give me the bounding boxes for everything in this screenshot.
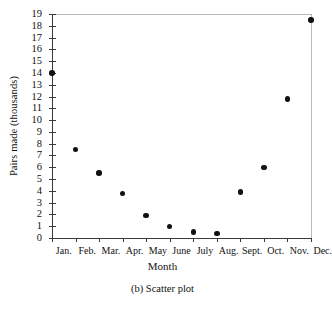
y-axis-tick-labels: 012345678910111213141516171819: [26, 0, 42, 328]
figure-caption: (b) Scatter plot: [0, 283, 325, 294]
y-axis-tick: [49, 132, 56, 133]
y-axis-tick-label: 18: [26, 20, 42, 31]
y-axis-tick: [49, 61, 56, 62]
x-axis-tick: [287, 238, 288, 242]
y-axis-tick: [49, 226, 56, 227]
x-axis-tick-label: Aug.: [219, 245, 239, 256]
y-axis-tick-label: 3: [26, 197, 42, 208]
y-axis-tick-label: 11: [26, 103, 42, 114]
x-axis-tick: [146, 238, 147, 242]
x-axis-tick: [217, 238, 218, 242]
y-axis-tick: [49, 167, 56, 168]
y-axis-tick-label: 16: [26, 44, 42, 55]
x-axis-tick-label: July: [197, 245, 214, 256]
y-axis-tick-label: 13: [26, 79, 42, 90]
x-axis-tick-label: May: [149, 245, 167, 256]
y-axis-tick-label: 8: [26, 138, 42, 149]
y-axis-tick-label: 6: [26, 162, 42, 173]
y-axis-tick-label: 7: [26, 150, 42, 161]
plot-top-border: [52, 14, 311, 15]
data-point: [214, 231, 219, 236]
data-point: [167, 224, 172, 229]
y-axis-tick: [49, 108, 56, 109]
y-axis-tick: [49, 191, 56, 192]
x-axis-tick: [76, 238, 77, 242]
y-axis-tick: [49, 97, 56, 98]
y-axis-tick-label: 4: [26, 185, 42, 196]
x-axis-tick-label: Sept.: [242, 245, 262, 256]
x-axis-tick: [99, 238, 100, 242]
y-axis-tick-label: 2: [26, 209, 42, 220]
y-axis-tick: [49, 14, 56, 15]
x-axis-tick: [123, 238, 124, 242]
data-point: [191, 229, 196, 234]
x-axis-tick-label: Feb.: [79, 245, 97, 256]
y-axis-tick-label: 15: [26, 56, 42, 67]
x-axis-tick-label: June: [172, 245, 190, 256]
y-axis-tick-label: 1: [26, 221, 42, 232]
y-axis-tick: [49, 179, 56, 180]
x-axis-tick: [264, 238, 265, 242]
y-axis-tick-label: 5: [26, 174, 42, 185]
y-axis-tick: [49, 85, 56, 86]
x-axis-tick-label: Oct.: [267, 245, 284, 256]
plot-area: [52, 14, 311, 238]
data-point: [73, 147, 78, 152]
data-point: [143, 213, 148, 218]
x-axis-tick: [170, 238, 171, 242]
y-axis-title-text: Pairs made (thousands): [8, 38, 19, 214]
y-axis-tick-label: 19: [26, 9, 42, 20]
y-axis-tick: [49, 214, 56, 215]
x-axis-line: [52, 238, 311, 239]
x-axis-tick: [240, 238, 241, 242]
x-axis-tick: [193, 238, 194, 242]
data-point: [285, 96, 290, 101]
y-axis-tick-label: 0: [26, 233, 42, 244]
x-axis-tick-label: Dec.: [313, 245, 332, 256]
y-axis-tick-label: 17: [26, 32, 42, 43]
y-axis-tick: [49, 155, 56, 156]
y-axis-tick: [49, 49, 56, 50]
plot-right-border: [311, 14, 312, 238]
data-point: [261, 165, 266, 170]
y-axis-tick: [49, 120, 56, 121]
data-point: [238, 189, 243, 194]
y-axis-tick: [49, 38, 56, 39]
data-point: [96, 170, 101, 175]
y-axis-tick: [49, 203, 56, 204]
y-axis-tick-label: 14: [26, 67, 42, 78]
y-axis-tick-label: 10: [26, 115, 42, 126]
data-point: [308, 17, 313, 22]
x-axis-tick-label: Nov.: [290, 245, 309, 256]
x-axis-tick-label: Mar.: [102, 245, 121, 256]
y-axis-tick: [49, 26, 56, 27]
x-axis-tick: [311, 238, 312, 242]
data-point: [49, 70, 54, 75]
x-axis-tick-label: Apr.: [126, 245, 144, 256]
y-axis-title: Pairs made (thousands): [8, 0, 22, 38]
x-axis-tick-label: Jan.: [56, 245, 72, 256]
y-axis-tick-label: 12: [26, 91, 42, 102]
y-axis-line: [52, 14, 53, 238]
x-axis-title: Month: [0, 260, 325, 272]
y-axis-tick: [49, 144, 56, 145]
x-axis-tick: [52, 238, 53, 242]
data-point: [120, 191, 125, 196]
y-axis-tick-label: 9: [26, 126, 42, 137]
